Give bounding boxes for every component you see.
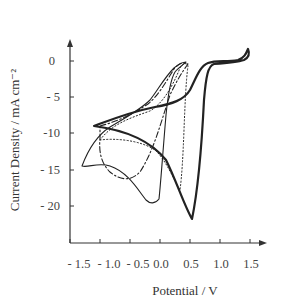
- x-tick-label: 1.5: [243, 257, 259, 271]
- x-tick-label: - 1.5: [68, 257, 91, 271]
- y-tick-label: 0: [49, 54, 55, 68]
- x-tick-label: - 0.5: [127, 257, 150, 271]
- y-tick-label: - 5: [46, 90, 60, 104]
- series-solid-thin: [82, 62, 186, 203]
- y-axis: [67, 39, 74, 243]
- series-dotted: [100, 64, 188, 190]
- series-solid-thick: [94, 49, 249, 219]
- x-tick-label: 0.0: [153, 257, 169, 271]
- x-tick-label: - 1.0: [98, 257, 121, 271]
- y-tick-label: - 15: [40, 163, 60, 177]
- x-axis-arrow-icon: [259, 240, 267, 246]
- y-axis-arrow-icon: [67, 39, 73, 47]
- x-tick-label: 1.0: [213, 257, 229, 271]
- y-tick-label: -10: [43, 126, 60, 140]
- x-tick-label: 0.5: [183, 257, 199, 271]
- x-axis: [70, 239, 267, 246]
- x-axis-title: Potential / V: [152, 283, 218, 298]
- y-tick-label: - 20: [40, 199, 60, 213]
- y-axis-title: Current Density / mA cm⁻²: [7, 69, 22, 211]
- cv-chart: 0 - 5 -10 - 15 - 20 - 1.5 - 1.0 - 0.5 0.…: [0, 0, 288, 307]
